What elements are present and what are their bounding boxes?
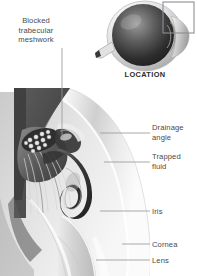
label-iris: Iris bbox=[152, 207, 196, 217]
label-cornea: Cornea bbox=[152, 240, 196, 250]
label-trapped-fluid: Trapped fluid bbox=[152, 152, 196, 171]
cross-section-group bbox=[0, 88, 150, 276]
label-location: LOCATION bbox=[108, 70, 182, 80]
label-blocked-trabecular-meshwork: Blocked trabecular meshwork bbox=[6, 16, 66, 45]
label-lens: Lens bbox=[152, 256, 196, 266]
label-drainage-angle: Drainage angle bbox=[152, 123, 196, 142]
figure-root: Blocked trabecular meshwork LOCATION Dra… bbox=[0, 0, 197, 276]
eye-globe-inset bbox=[95, 1, 194, 71]
inset-vitreous bbox=[112, 4, 174, 66]
